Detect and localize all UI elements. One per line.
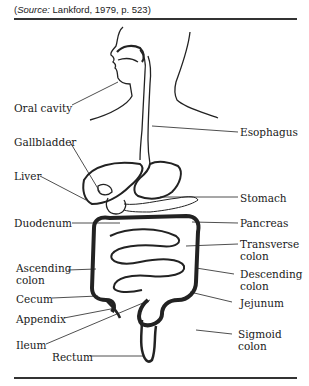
label-jejunum: Jejunum [240, 297, 284, 309]
label-stomach: Stomach [240, 192, 287, 204]
label-gallbladder: Gallbladder [14, 136, 76, 148]
label-rectum: Rectum [52, 351, 93, 363]
label-ascending-colon-line1: Ascending [16, 262, 71, 274]
label-cecum: Cecum [16, 293, 53, 305]
label-pancreas: Pancreas [240, 217, 288, 229]
label-descending-colon-line2: colon [240, 280, 269, 292]
label-duodenum: Duodenum [14, 217, 72, 229]
label-sigmoid-colon-line1: Sigmoid [238, 328, 282, 340]
label-sigmoid-colon-line2: colon [238, 340, 267, 352]
label-oral-cavity: Oral cavity [14, 102, 72, 114]
label-transverse-colon-line1: Transverse [240, 238, 299, 250]
label-descending-colon-line1: Descending [240, 268, 302, 280]
label-ascending-colon-line2: colon [16, 274, 45, 286]
label-transverse-colon-line2: colon [240, 250, 269, 262]
label-esophagus: Esophagus [240, 126, 298, 138]
bottom-rule [14, 377, 297, 379]
label-appendix: Appendix [16, 313, 66, 325]
label-ileum: Ileum [16, 339, 46, 351]
label-liver: Liver [14, 170, 42, 182]
